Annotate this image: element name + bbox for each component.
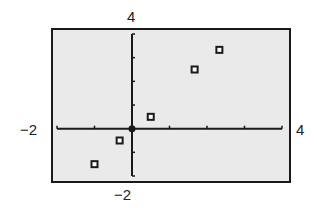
- xmax-label: 4: [296, 122, 304, 137]
- data-point-marker: [117, 138, 123, 144]
- graphing-calculator-screen: [0, 0, 317, 208]
- ymax-label: 4: [127, 9, 135, 24]
- plot-frame: [52, 29, 290, 182]
- data-point-marker: [148, 114, 154, 120]
- data-point-marker: [216, 47, 222, 53]
- xmin-label: −2: [20, 122, 37, 137]
- data-point-marker: [192, 67, 198, 73]
- ymin-label: −2: [114, 187, 131, 202]
- origin-dot: [129, 125, 136, 132]
- data-point-marker: [92, 161, 98, 167]
